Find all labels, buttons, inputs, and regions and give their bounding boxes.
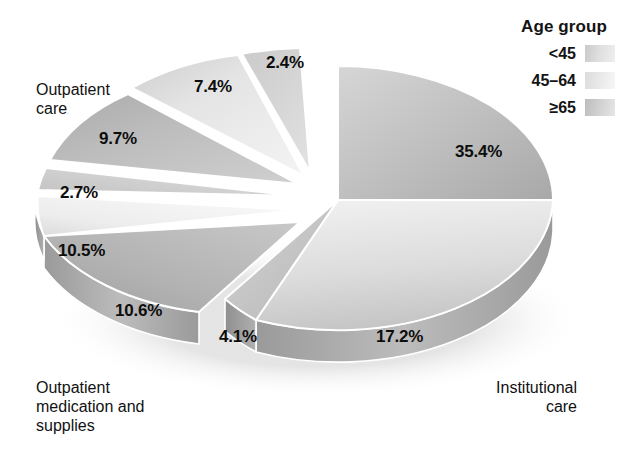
- slice-value-label: 35.4%: [455, 142, 502, 162]
- legend-title: Age group: [410, 18, 607, 37]
- legend-item-label: ≥65: [549, 100, 576, 116]
- slice-value-label: 10.5%: [58, 241, 105, 261]
- legend-item-45-64: 45–64: [410, 71, 615, 91]
- legend-item-under-45: <45: [410, 44, 615, 64]
- pie-chart-figure: 35.4% 17.2% 4.1% 10.6% 10.5% 2.7% 9.7% 7…: [0, 0, 625, 459]
- slice-value-label: 7.4%: [194, 77, 232, 97]
- slice-value-label: 4.1%: [219, 327, 257, 347]
- legend: Age group <45 45–64 ≥65: [410, 18, 615, 125]
- category-label-institutional-care: Institutional care: [496, 378, 577, 416]
- slice-value-label: 9.7%: [99, 129, 137, 149]
- legend-swatch-icon: [585, 72, 615, 89]
- legend-item-label: 45–64: [532, 73, 577, 89]
- slice-value-label: 2.4%: [266, 53, 304, 73]
- category-label-outpatient-care: Outpatient care: [36, 80, 110, 118]
- slice-value-label: 10.6%: [115, 301, 162, 321]
- legend-swatch-icon: [585, 99, 615, 116]
- slice-value-label: 2.7%: [60, 183, 98, 203]
- category-label-outpatient-medication-supplies: Outpatient medication and supplies: [36, 378, 145, 435]
- slice-value-label: 17.2%: [376, 327, 423, 347]
- legend-swatch-icon: [585, 45, 615, 62]
- legend-item-label: <45: [549, 46, 576, 62]
- legend-item-65-plus: ≥65: [410, 98, 615, 118]
